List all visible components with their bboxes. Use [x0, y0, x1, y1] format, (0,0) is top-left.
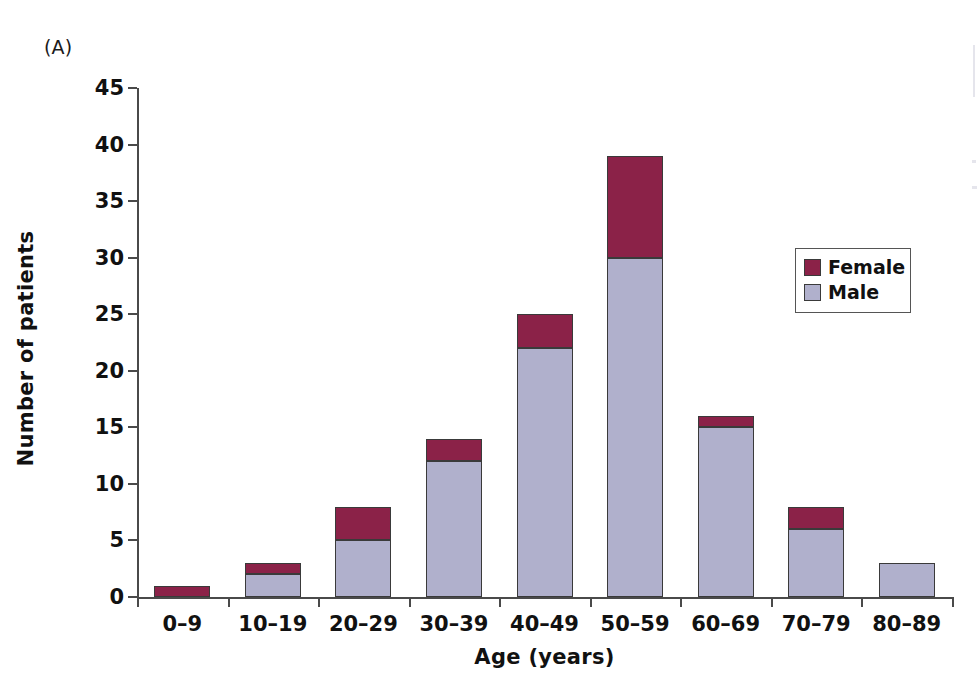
y-tick — [128, 144, 137, 146]
bar-segment-female — [517, 314, 573, 348]
x-tick — [499, 597, 501, 607]
bar-segment-male — [698, 427, 754, 597]
y-tick-label: 25 — [95, 302, 124, 326]
edge-artifact-line — [973, 45, 975, 97]
bar-group — [426, 439, 482, 597]
bar-group — [698, 416, 754, 597]
x-tick-label: 40–49 — [510, 612, 579, 636]
edge-artifact-tick-2 — [972, 186, 977, 189]
bar-segment-male — [879, 563, 935, 597]
x-tick — [590, 597, 592, 607]
x-tick — [861, 597, 863, 607]
bar-segment-female — [245, 563, 301, 574]
x-tick — [137, 597, 139, 607]
x-tick-label: 20–29 — [329, 612, 398, 636]
x-axis-line — [137, 597, 952, 599]
y-axis-title: Number of patients — [6, 0, 46, 697]
bar-group — [607, 156, 663, 597]
x-tick — [318, 597, 320, 607]
bar-group — [879, 563, 935, 597]
bar-group — [517, 314, 573, 597]
y-tick-label: 45 — [95, 76, 124, 100]
y-tick — [128, 370, 137, 372]
bar-segment-female — [154, 586, 210, 597]
y-axis-line — [137, 88, 139, 598]
plot-area: 051015202530354045 0–910–1920–2930–3940–… — [137, 88, 952, 597]
bar-segment-male — [788, 529, 844, 597]
legend-swatch-female — [804, 259, 821, 276]
bar-segment-male — [426, 461, 482, 597]
bar-segment-male — [517, 348, 573, 597]
x-tick — [409, 597, 411, 607]
x-tick — [952, 597, 954, 607]
x-tick — [680, 597, 682, 607]
x-tick-label: 10–19 — [238, 612, 307, 636]
y-tick-label: 5 — [109, 528, 124, 552]
legend-item-male: Male — [804, 280, 902, 305]
y-tick-label: 40 — [95, 133, 124, 157]
legend-label: Male — [828, 283, 879, 302]
bar-segment-male — [335, 540, 391, 597]
y-tick-label: 35 — [95, 189, 124, 213]
y-tick-label: 0 — [109, 585, 124, 609]
bar-segment-male — [245, 574, 301, 597]
bar-group — [154, 586, 210, 597]
bar-segment-female — [607, 156, 663, 258]
panel-label: (A) — [44, 36, 72, 58]
y-tick-label: 15 — [95, 415, 124, 439]
bar-segment-female — [788, 507, 844, 530]
bar-segment-male — [607, 258, 663, 597]
y-tick — [128, 483, 137, 485]
x-tick — [228, 597, 230, 607]
y-tick-label: 20 — [95, 359, 124, 383]
y-tick-label: 30 — [95, 246, 124, 270]
x-tick-label: 0–9 — [162, 612, 202, 636]
legend: FemaleMale — [795, 248, 911, 313]
legend-item-female: Female — [804, 255, 902, 280]
x-tick-label: 80–89 — [872, 612, 941, 636]
bar-segment-female — [335, 507, 391, 541]
y-tick — [128, 426, 137, 428]
y-tick — [128, 313, 137, 315]
legend-swatch-male — [804, 284, 821, 301]
bar-group — [335, 507, 391, 597]
y-tick — [128, 257, 137, 259]
bar-segment-female — [426, 439, 482, 462]
chart-figure: (A) Number of patients 05101520253035404… — [0, 0, 978, 697]
bar-group — [245, 563, 301, 597]
y-tick — [128, 539, 137, 541]
y-tick-label: 10 — [95, 472, 124, 496]
x-tick-label: 60–69 — [691, 612, 760, 636]
x-tick — [771, 597, 773, 607]
edge-artifact-tick-1 — [972, 160, 976, 163]
x-axis-title: Age (years) — [137, 645, 952, 669]
x-tick-label: 50–59 — [601, 612, 670, 636]
x-tick-label: 70–79 — [782, 612, 851, 636]
bar-group — [788, 507, 844, 597]
legend-label: Female — [828, 258, 905, 277]
y-tick — [128, 596, 137, 598]
y-tick — [128, 200, 137, 202]
y-tick — [128, 87, 137, 89]
x-tick-label: 30–39 — [419, 612, 488, 636]
bar-segment-female — [698, 416, 754, 427]
